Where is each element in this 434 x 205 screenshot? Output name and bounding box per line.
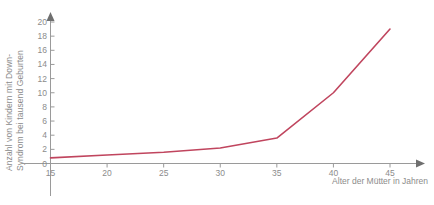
y-tick-label: 2 [42,144,47,154]
x-tick-label: 15 [46,168,56,178]
y-tick-label: 16 [38,45,48,55]
x-tick-label: 25 [159,168,169,178]
x-axis-title-label: Alter der Mütter in Jahren [332,176,428,186]
data-series-group [51,29,391,158]
y-tick-label: 18 [38,31,48,41]
x-tick-label: 20 [102,168,112,178]
y-tick-label: 12 [38,74,48,84]
plot-area: 15202530354045 02468101214161820 Alter d… [0,0,434,205]
y-tick-label: 0 [42,159,47,169]
y-axis-ticks: 02468101214161820 [38,17,55,169]
x-axis [22,160,425,168]
y-tick-label: 6 [42,116,47,126]
y-axis-arrowhead-icon [47,12,55,21]
data-series-line [51,29,391,158]
y-tick-label: 4 [42,130,47,140]
x-axis-arrowhead-icon [416,160,425,168]
y-tick-label: 8 [42,102,47,112]
y-tick-label: 20 [38,17,48,27]
y-tick-label: 10 [38,88,48,98]
y-tick-label: 14 [38,59,48,69]
x-tick-label: 35 [272,168,282,178]
chart-container: Anzahl von Kindern mit Down- Syndrom bei… [0,0,434,205]
x-tick-label: 30 [216,168,226,178]
